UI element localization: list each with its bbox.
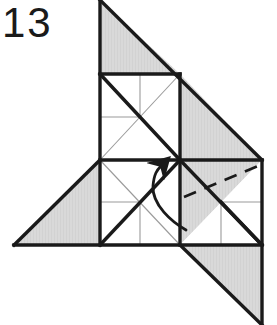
figure-canvas: 13 [0,0,277,325]
origami-fold-diagram [0,0,277,325]
